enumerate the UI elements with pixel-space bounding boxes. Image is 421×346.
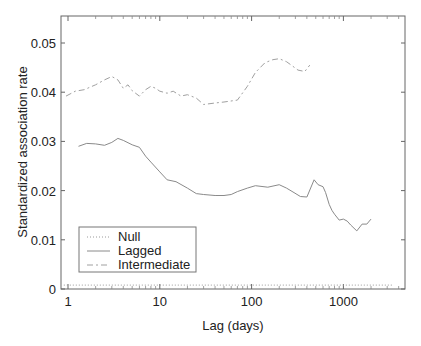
- x-tick-label: 1000: [329, 294, 358, 309]
- legend-label-intermediate: Intermediate: [118, 257, 190, 272]
- legend-label-null: Null: [118, 229, 141, 244]
- legend-label-lagged: Lagged: [118, 243, 161, 258]
- x-axis-title: Lag (days): [202, 318, 263, 333]
- y-tick-label: 0.01: [31, 233, 56, 248]
- y-tick-label: 0.04: [31, 85, 56, 100]
- y-axis-title: Standardized association rate: [15, 66, 30, 237]
- x-tick-label: 100: [241, 294, 263, 309]
- y-tick-label: 0.03: [31, 134, 56, 149]
- y-tick-label: 0.05: [31, 36, 56, 51]
- x-tick-label: 1: [64, 294, 71, 309]
- x-tick-label: 10: [153, 294, 167, 309]
- y-tick-label: 0: [49, 282, 56, 297]
- y-tick-label: 0.02: [31, 184, 56, 199]
- legend: Null Lagged Intermediate: [79, 227, 196, 272]
- chart-canvas: 00.010.020.030.040.05 1101001000 Lag (da…: [0, 0, 421, 346]
